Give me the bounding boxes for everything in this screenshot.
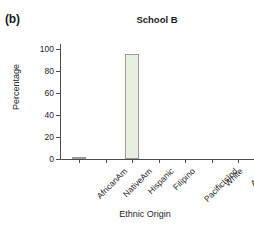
x-axis-title: Ethnic Origin — [60, 209, 230, 219]
x-tick-mark — [212, 160, 213, 163]
x-tick-mark — [132, 160, 133, 163]
figure-panel-b: (b) School B Percentage 020406080100 Afr… — [0, 0, 254, 229]
y-tick-mark — [56, 159, 60, 160]
y-tick-mark — [56, 71, 60, 72]
plot-area: 020406080100 AfricanAmNativeAmHispanicFi… — [60, 44, 254, 160]
bar — [72, 157, 86, 159]
x-tick-mark — [106, 160, 107, 163]
x-tick-mark — [185, 160, 186, 163]
x-tick-mark — [159, 160, 160, 163]
x-tick-mark — [79, 160, 80, 163]
x-category-label: Asian — [248, 166, 254, 188]
x-tick-mark — [238, 160, 239, 163]
x-category-label: Filipino — [171, 166, 197, 192]
y-axis-line — [60, 44, 61, 160]
x-axis-line — [60, 159, 254, 160]
y-tick-label: 20 — [45, 132, 54, 142]
y-tick-mark — [56, 49, 60, 50]
x-category-label: White — [222, 166, 244, 188]
y-tick-label: 0 — [49, 154, 54, 164]
y-tick-label: 60 — [45, 88, 54, 98]
y-axis-title: Percentage — [11, 52, 21, 122]
y-tick-mark — [56, 93, 60, 94]
y-tick-mark — [56, 137, 60, 138]
bar — [125, 54, 139, 159]
y-tick-label: 80 — [45, 66, 54, 76]
y-tick-label: 40 — [45, 110, 54, 120]
chart-title: School B — [60, 14, 254, 25]
y-tick-mark — [56, 115, 60, 116]
panel-label: (b) — [5, 12, 20, 26]
y-tick-label: 100 — [40, 44, 54, 54]
